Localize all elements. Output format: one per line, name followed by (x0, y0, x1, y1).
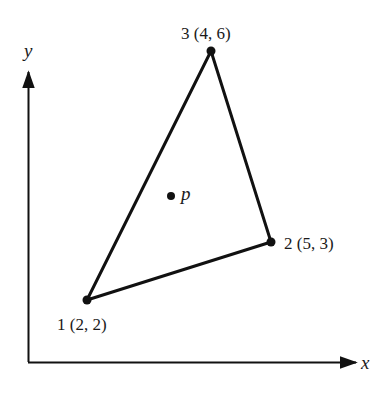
interior-point: p (167, 183, 191, 204)
vertices: 1 (2, 2) 2 (5, 3) 3 (4, 6) (57, 24, 334, 334)
triangle-edges (87, 51, 271, 300)
diagram-canvas: y x 1 (2, 2) 2 (5, 3) 3 (4, 6) p (0, 0, 385, 396)
triangle-element-diagram: y x 1 (2, 2) 2 (5, 3) 3 (4, 6) p (0, 0, 385, 396)
vertex-2-label: 2 (5, 3) (284, 234, 334, 253)
y-axis-label: y (22, 40, 33, 61)
x-axis-label: x (360, 352, 370, 373)
triangle (87, 51, 271, 300)
point-p-dot (167, 192, 175, 200)
vertex-1-dot (83, 296, 92, 305)
point-p-label: p (179, 183, 191, 204)
vertex-1-label: 1 (2, 2) (57, 315, 107, 334)
vertex-2-dot (267, 238, 276, 247)
vertex-3-label: 3 (4, 6) (181, 24, 231, 43)
vertex-3-dot (207, 47, 216, 56)
